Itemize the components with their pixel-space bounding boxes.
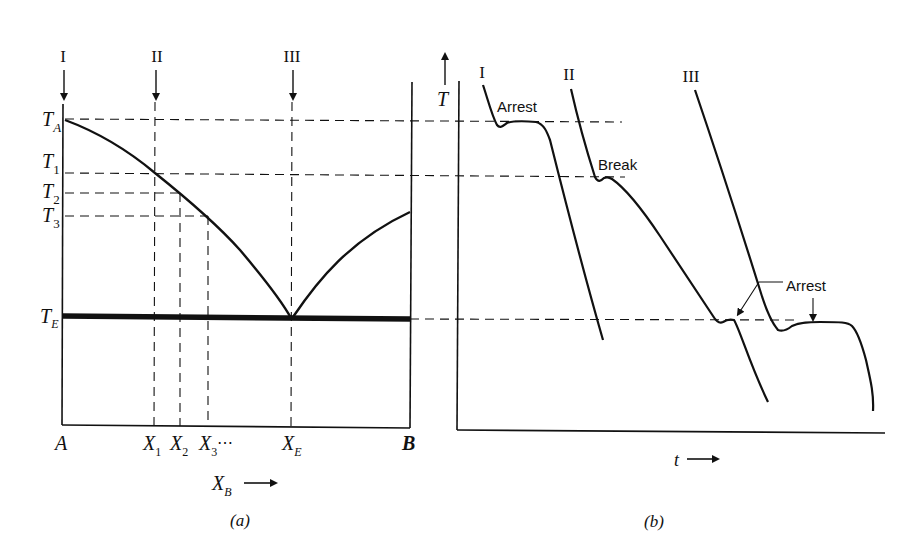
- arrest-leader-line-icon: [739, 282, 783, 313]
- label-TA: TA: [42, 108, 61, 135]
- ref-line-T1: [65, 173, 625, 177]
- label-XE: XE: [281, 432, 302, 459]
- label-TE: TE: [40, 305, 59, 331]
- panel-a-x-axis-title: XB: [211, 472, 274, 499]
- composition-markers: I II III: [60, 47, 301, 97]
- phase-diagram-figure: I II III TA T1 T2 T3 TE A X1 X2 X3⋯ XE B…: [0, 0, 911, 551]
- label-X2: X2: [169, 432, 188, 459]
- liquidus-curve-b-side: [293, 212, 410, 317]
- marker-label-II: II: [151, 47, 163, 66]
- ref-line-TE: [410, 319, 795, 320]
- left-axis-A: [62, 104, 63, 425]
- panel-a-frame: [62, 82, 412, 428]
- cooling-curve-II: [571, 89, 768, 402]
- label-T2: T2: [42, 180, 60, 207]
- ref-line-XE: [291, 102, 292, 427]
- y-axis-title: T: [437, 88, 450, 110]
- liquidus-curve-a-side: [65, 120, 291, 318]
- panel-a-y-labels: TA T1 T2 T3 TE: [40, 108, 61, 331]
- curve-label-I: I: [479, 63, 485, 82]
- label-T3: T3: [42, 204, 60, 231]
- panel-a-caption: (a): [230, 511, 250, 530]
- label-X3: X3⋯: [198, 432, 233, 459]
- curve-label-III: III: [683, 67, 700, 86]
- panel-b-axes: [457, 81, 885, 433]
- svg-text:XB: XB: [211, 472, 232, 499]
- x-axis-title: t: [674, 450, 680, 470]
- marker-label-III: III: [284, 47, 301, 66]
- label-T1: T1: [42, 150, 60, 177]
- label-A: A: [53, 432, 68, 454]
- right-axis-B: [410, 82, 412, 428]
- y-axis: [457, 81, 459, 430]
- annotation-arrest-top: Arrest: [497, 98, 538, 115]
- cooling-curve-I: [483, 85, 603, 340]
- annotation-break: Break: [598, 156, 638, 173]
- ref-line-X1: [154, 102, 155, 425]
- marker-label-I: I: [60, 47, 66, 66]
- eutectic-line: [63, 316, 410, 319]
- panel-b-caption: (b): [644, 512, 664, 531]
- label-B: B: [401, 432, 415, 454]
- curve-label-II: II: [563, 65, 575, 84]
- reference-lines-horizontal: [65, 119, 795, 320]
- panel-b: T I II III Arrest Break Arrest t (b): [437, 56, 885, 531]
- cooling-curve-III: [695, 90, 873, 411]
- bottom-axis: [62, 425, 410, 428]
- annotation-arrest-bottom: Arrest: [786, 277, 827, 294]
- x-axis: [457, 430, 885, 433]
- panel-a: I II III TA T1 T2 T3 TE A X1 X2 X3⋯ XE B…: [40, 47, 795, 530]
- ref-line-TA: [65, 119, 622, 122]
- label-X1: X1: [142, 432, 161, 459]
- reference-lines-vertical: [154, 102, 292, 427]
- panel-a-x-labels: A X1 X2 X3⋯ XE B: [53, 432, 415, 459]
